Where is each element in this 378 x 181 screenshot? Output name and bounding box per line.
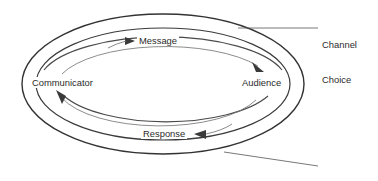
node-label-communicator: Communicator <box>30 77 95 88</box>
communication-model-diagram: Communicator Audience Message Response C… <box>0 0 378 181</box>
callout-channel-line1: Channel <box>322 39 357 51</box>
flow-label-response: Response <box>141 128 187 139</box>
message-arrow-tail <box>108 41 126 48</box>
message-flow-arc <box>62 47 258 74</box>
callout-channel-choice: Channel Choice <box>322 16 357 108</box>
node-label-audience: Audience <box>240 77 283 88</box>
callout-culture: Culture <box>322 158 352 181</box>
callout-channel-line2: Choice <box>322 74 357 86</box>
response-arrow-head-communicator <box>56 90 66 104</box>
flow-label-message: Message <box>137 35 179 46</box>
culture-leader-line <box>224 152 318 166</box>
response-band-arc <box>64 96 268 122</box>
